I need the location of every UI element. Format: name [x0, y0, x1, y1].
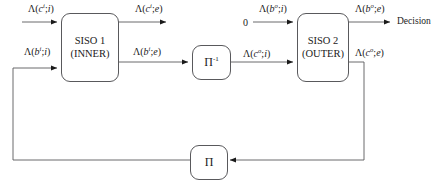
siso-1-label-line2: (INNER) — [70, 48, 109, 60]
siso-1-block: SISO 1 (INNER) — [61, 13, 119, 82]
deinterleaver-symbol: Π-1 — [204, 55, 219, 69]
label-lambda-bi-e: Λ(bi;e) — [133, 46, 161, 57]
label-lambda-bo-e: Λ(bo;e) — [355, 3, 384, 14]
deinterleaver-block: Π-1 — [192, 45, 231, 80]
label-lambda-ci-e: Λ(ci;e) — [135, 3, 162, 14]
label-lambda-bi-i: Λ(bi;i) — [24, 46, 50, 57]
deinterleaver-superscript: -1 — [213, 55, 219, 63]
label-lambda-ci-i: Λ(ci;i) — [28, 3, 54, 14]
siso-2-block: SISO 2 (OUTER) — [297, 13, 349, 82]
label-zero-input: 0 — [243, 17, 248, 28]
interleaver-symbol: Π — [205, 155, 214, 169]
siso-1-label-line1: SISO 1 — [75, 35, 106, 47]
interleaver-block: Π — [190, 145, 228, 180]
siso-2-label-line1: SISO 2 — [308, 35, 339, 47]
decoder-block-diagram: SISO 1 (INNER) SISO 2 (OUTER) Π-1 Π Λ(ci… — [0, 0, 438, 187]
label-lambda-co-e: Λ(co;e) — [355, 47, 384, 58]
label-decision: Decision — [397, 16, 431, 26]
label-lambda-bo-i: Λ(bo;i) — [259, 3, 287, 14]
siso-2-label-line2: (OUTER) — [302, 48, 344, 60]
wire-feedback-to-siso1 — [13, 68, 57, 160]
label-lambda-co-i: Λ(co;i) — [243, 48, 270, 59]
